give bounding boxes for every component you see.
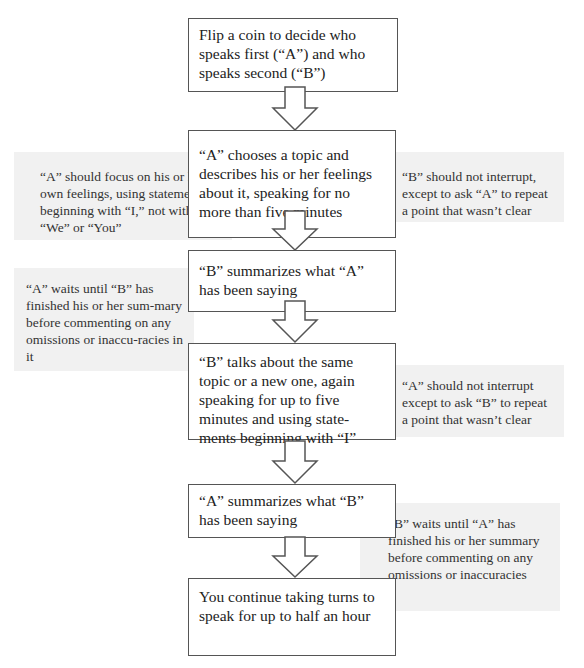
step-text: “B” talks about the same topic or a new … (199, 353, 356, 446)
down-arrow-icon (270, 300, 320, 344)
down-arrow-icon (270, 536, 320, 579)
note-text: “A” waits until “B” has finished his or … (26, 281, 183, 364)
note-text: “A” should not interrupt except to ask “… (402, 378, 547, 427)
step-text: “A” chooses a topic and describes his or… (199, 146, 372, 220)
step-text: You continue taking turns to speak for u… (199, 588, 375, 624)
note-text: “B” waits until “A” has finished his or … (388, 516, 539, 582)
step-continue-turns: You continue taking turns to speak for u… (188, 578, 396, 656)
step-text: Flip a coin to decide who speaks first (… (199, 26, 365, 81)
down-arrow-icon (270, 210, 320, 252)
step-text: “B” summarizes what “A” has been saying (199, 262, 364, 298)
down-arrow-icon (270, 440, 320, 485)
step-flip-coin: Flip a coin to decide who speaks first (… (188, 18, 398, 92)
note-a-waits: “A” waits until “B” has finished his or … (14, 268, 194, 371)
note-text: “B” should not interrupt, except to ask … (402, 169, 548, 218)
step-a-summarizes: “A” summarizes what “B” has been saying (188, 484, 396, 538)
note-a-no-interrupt: “A” should not interrupt except to ask “… (388, 365, 564, 437)
step-b-talks: “B” talks about the same topic or a new … (188, 343, 396, 440)
down-arrow-icon (270, 86, 320, 132)
note-text: “A” should focus on his or her own feeli… (40, 169, 206, 235)
step-text: “A” summarizes what “B” has been saying (199, 492, 364, 528)
note-b-no-interrupt: “B” should not interrupt, except to ask … (388, 152, 564, 222)
